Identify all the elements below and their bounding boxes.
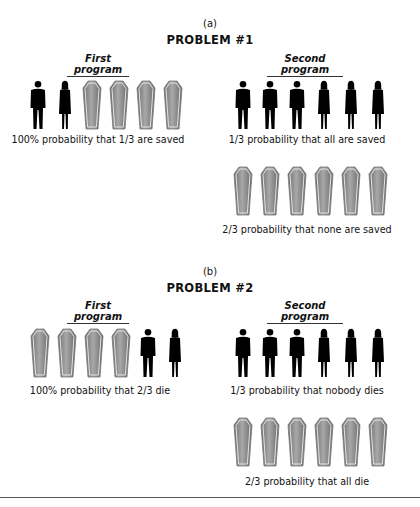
man-icon [233,328,253,378]
problem-2-first-program-caption: 100% probability that 2/3 die [0,385,200,396]
man-icon [287,328,307,378]
problem-2-first-program-icons [30,328,185,378]
woman-icon [314,80,334,130]
woman-icon [165,328,185,378]
coffin-icon [30,328,50,378]
problem-2-first-program-label: First program [67,300,129,324]
problem-1-second-program-outcome-2-icons [233,164,388,218]
problem-1-first-program-label: First program [67,53,129,77]
bottom-rule [0,497,420,498]
coffin-icon [260,164,280,218]
coffin-icon [368,415,388,469]
man-icon [260,80,280,130]
problem-1-title: PROBLEM #1 [0,33,420,47]
woman-icon [341,80,361,130]
panel-label-b: (b) [0,266,420,277]
problem-2-title: PROBLEM #2 [0,281,420,295]
coffin-icon [368,164,388,218]
problem-2-second-program-outcome-1-icons [233,328,388,378]
coffin-icon [314,415,334,469]
coffin-icon [84,328,104,378]
man-icon [260,328,280,378]
man-icon [287,80,307,130]
problem-1-second-program-outcome-2-caption: 2/3 probability that none are saved [222,224,392,235]
problem-2-second-program-outcome-2-caption: 2/3 probability that all die [222,476,392,487]
coffin-icon [341,164,361,218]
coffin-icon [57,328,77,378]
man-icon [138,328,158,378]
woman-icon [368,80,388,130]
problem-2-second-program-outcome-2-icons [233,415,388,469]
coffin-icon [287,164,307,218]
woman-icon [341,328,361,378]
coffin-icon [82,80,102,130]
coffin-icon [314,164,334,218]
problem-2-second-program-label: Second program [267,300,343,324]
problem-1-second-program-label: Second program [267,53,343,77]
coffin-icon [287,415,307,469]
coffin-icon [111,328,131,378]
problem-1-second-program-outcome-1-icons [233,80,388,130]
problem-1-first-program-caption: 100% probability that 1/3 are saved [0,134,196,145]
woman-icon [55,80,75,130]
coffin-icon [260,415,280,469]
problem-1-second-program-outcome-1-caption: 1/3 probability that all are saved [222,134,392,145]
panel-label-a: (a) [0,18,420,29]
coffin-icon [109,80,129,130]
problem-2-second-program-outcome-1-caption: 1/3 probability that nobody dies [222,385,392,396]
coffin-icon [233,164,253,218]
man-icon [233,80,253,130]
coffin-icon [163,80,183,130]
man-icon [28,80,48,130]
coffin-icon [233,415,253,469]
woman-icon [314,328,334,378]
problem-1-first-program-icons [28,80,183,130]
coffin-icon [136,80,156,130]
woman-icon [368,328,388,378]
coffin-icon [341,415,361,469]
